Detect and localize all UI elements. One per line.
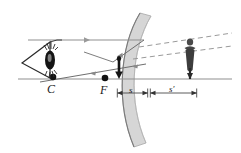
image-figure: [185, 38, 196, 79]
label-center-of-curvature: C: [47, 82, 55, 97]
virtual-extension-upper: [139, 33, 232, 47]
figure-canvas: C F s s′: [0, 0, 241, 153]
label-focal-point: F: [100, 83, 107, 98]
virtual-extension-lower: [133, 46, 232, 59]
parallel-incident-ray: [28, 37, 144, 43]
concave-mirror: [122, 13, 151, 147]
point-f: [102, 75, 109, 82]
observer-eye: [22, 40, 62, 78]
ray-diagram: [0, 0, 241, 153]
label-image-distance: s′: [169, 84, 174, 94]
label-object-distance: s: [129, 85, 133, 95]
